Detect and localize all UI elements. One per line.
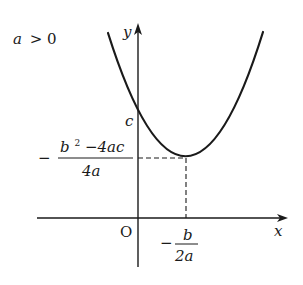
vertex-x-label: − b 2a (160, 226, 198, 265)
origin-label: O (120, 223, 132, 241)
vertex-y-label: − b 2 −4ac 4a (38, 132, 133, 180)
condition-zero: 0 (47, 30, 57, 48)
parabola-diagram: a > 0 y x O c − b 2 −4ac 4a − b 2a (0, 0, 303, 285)
vertex-y-numerator: b 2 −4ac (60, 132, 125, 156)
condition-label: a > 0 (13, 30, 57, 48)
numerator-rest: −4ac (85, 138, 125, 156)
vertex-y-sign: − (38, 149, 51, 167)
y-intercept-label: c (125, 112, 134, 130)
x-axis-label: x (274, 222, 283, 240)
vertex-x-sign: − (160, 234, 173, 252)
vertex-y-denominator: 4a (81, 162, 101, 180)
vertex-x-numerator: b (183, 226, 193, 244)
y-axis-label: y (122, 23, 132, 41)
condition-a: a (13, 30, 22, 48)
numerator-exponent: 2 (74, 138, 80, 148)
parabola-curve (108, 32, 263, 156)
numerator-b: b (60, 138, 70, 156)
vertex-x-denominator: 2a (174, 247, 194, 265)
condition-op: > (30, 30, 43, 48)
